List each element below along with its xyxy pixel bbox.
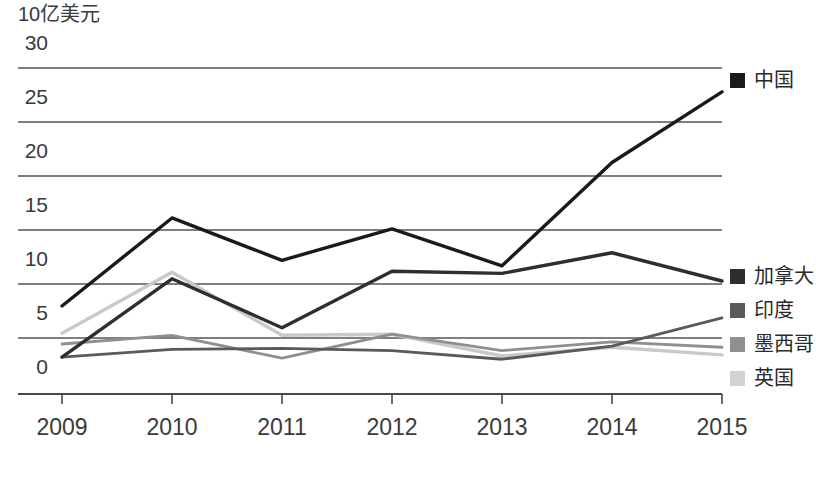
x-tick-label-2010: 2010 <box>124 416 220 439</box>
series-line-china <box>62 92 722 306</box>
legend-label-uk: 英国 <box>754 368 794 388</box>
legend-item-china[interactable]: 中国 <box>730 70 794 90</box>
legend-label-china: 中国 <box>754 70 794 90</box>
x-tick-label-2009: 2009 <box>14 416 110 439</box>
legend-label-canada: 加拿大 <box>754 266 814 286</box>
legend-item-mexico[interactable]: 墨西哥 <box>730 334 814 354</box>
legend-swatch-india-icon <box>730 303 745 318</box>
plot-area <box>0 0 816 478</box>
x-tick-label-2014: 2014 <box>564 416 660 439</box>
legend-item-uk[interactable]: 英国 <box>730 368 794 388</box>
x-tick-label-2015: 2015 <box>674 416 770 439</box>
series-lines <box>62 92 722 359</box>
legend-item-india[interactable]: 印度 <box>730 300 794 320</box>
legend-swatch-uk-icon <box>730 371 745 386</box>
x-axis <box>18 394 722 404</box>
legend-swatch-canada-icon <box>730 269 745 284</box>
legend-label-india: 印度 <box>754 300 794 320</box>
x-tick-label-2013: 2013 <box>454 416 550 439</box>
line-chart: 10亿美元 30 25 20 15 10 5 0 <box>0 0 816 478</box>
x-tick-label-2011: 2011 <box>234 416 330 439</box>
figure-caption <box>0 466 816 478</box>
x-tick-label-2012: 2012 <box>344 416 440 439</box>
legend-swatch-china-icon <box>730 73 745 88</box>
legend-item-canada[interactable]: 加拿大 <box>730 266 814 286</box>
legend-swatch-mexico-icon <box>730 337 745 352</box>
legend-label-mexico: 墨西哥 <box>754 334 814 354</box>
